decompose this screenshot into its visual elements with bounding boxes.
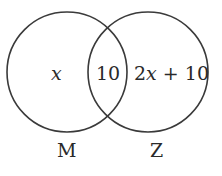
set-m-label: M — [57, 139, 76, 161]
m-only-label: x — [51, 62, 62, 84]
z-only-label: 2x + 10 — [134, 62, 209, 84]
venn-diagram: x 10 2x + 10 M Z — [0, 0, 222, 176]
set-z-label: Z — [150, 139, 163, 161]
intersection-label: 10 — [96, 62, 120, 84]
